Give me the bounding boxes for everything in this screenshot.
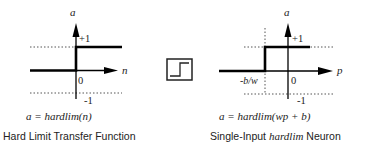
left-zero-label: 0 bbox=[78, 75, 83, 86]
right-x-axis-arrow-icon bbox=[318, 67, 333, 75]
left-equation: a = hardlim(n) bbox=[26, 110, 92, 123]
left-plus-one-label: +1 bbox=[79, 33, 90, 44]
right-caption-italic: hardlim bbox=[269, 130, 303, 142]
left-y-axis-label: a bbox=[70, 6, 76, 18]
right-caption-prefix: Single-Input bbox=[210, 130, 269, 142]
right-panel: a p +1 0 -b/w -1 a = hardlim(wp + b) Sin… bbox=[210, 6, 343, 142]
right-step-curve bbox=[219, 47, 310, 71]
left-panel: a n +1 0 -1 a = hardlim(n) Hard Limit Tr… bbox=[3, 6, 136, 142]
right-plus-one-label: +1 bbox=[292, 33, 303, 44]
left-x-axis-arrow-icon bbox=[104, 67, 118, 74]
right-equation: a = hardlim(wp + b) bbox=[219, 110, 311, 123]
left-caption: Hard Limit Transfer Function bbox=[3, 130, 136, 142]
hardlim-diagram: a n +1 0 -1 a = hardlim(n) Hard Limit Tr… bbox=[0, 0, 377, 153]
right-minus-one-label: -1 bbox=[297, 95, 306, 106]
right-zero-label: 0 bbox=[291, 75, 296, 86]
right-x-axis-label: p bbox=[336, 64, 343, 76]
right-y-axis-label: a bbox=[284, 6, 290, 18]
left-step-curve bbox=[30, 47, 122, 71]
right-caption-suffix: Neuron bbox=[303, 130, 341, 142]
left-minus-one-label: -1 bbox=[84, 95, 93, 106]
right-caption: Single-Input hardlim Neuron bbox=[210, 130, 341, 142]
left-x-axis-label: n bbox=[122, 64, 128, 76]
right-y-axis-arrow-icon bbox=[285, 23, 292, 37]
hardlim-step-icon bbox=[167, 59, 192, 80]
right-threshold-label: -b/w bbox=[240, 75, 258, 86]
